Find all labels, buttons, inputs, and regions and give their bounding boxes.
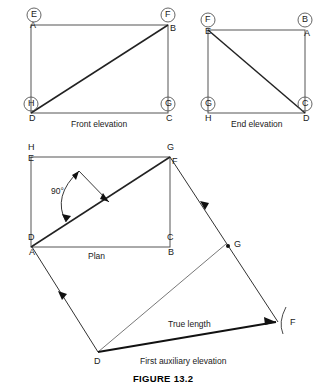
front-elevation-caption: Front elevation bbox=[71, 120, 127, 129]
front-elevation-label-top-right: B bbox=[170, 24, 176, 33]
auxiliary-point-g-label: G bbox=[234, 240, 241, 249]
projector-a-to-d-arrowhead bbox=[58, 291, 67, 300]
end-elevation-label-bottom-right: D bbox=[303, 114, 310, 123]
plan-circled-label-top-left: H bbox=[28, 143, 35, 152]
front-elevation-circled-label-top-left: E bbox=[31, 10, 37, 19]
front-elevation-circled-label-top-right: F bbox=[165, 10, 171, 19]
end-elevation-circled-label-top-right: B bbox=[302, 15, 308, 24]
plan-view bbox=[31, 157, 170, 247]
auxiliary-point-d-label: D bbox=[94, 357, 101, 366]
end-elevation-circled-label-bottom-right: C bbox=[302, 99, 309, 108]
true-length-label: True length bbox=[168, 320, 211, 329]
right-angle-arrowhead-lower bbox=[62, 214, 71, 222]
first-auxiliary-elevation-view bbox=[32, 157, 286, 352]
front-elevation-diagonal bbox=[31, 25, 168, 113]
plan-circled-label-top-right: G bbox=[167, 143, 174, 152]
construction-line-d-to-plan-f bbox=[98, 244, 226, 352]
point-g-marker bbox=[226, 244, 230, 248]
plan-label-bottom-left: A bbox=[29, 248, 35, 257]
front-elevation-label-top-left: A bbox=[30, 21, 36, 30]
plan-label-top-right: F bbox=[172, 157, 178, 166]
end-elevation-caption: End elevation bbox=[231, 120, 283, 129]
end-elevation-label-bottom-left: H bbox=[205, 114, 212, 123]
front-elevation-label-bottom-left: D bbox=[29, 114, 36, 123]
figure-number-caption: FIGURE 13.2 bbox=[133, 373, 193, 384]
end-elevation-view bbox=[201, 13, 312, 113]
projector-f-to-g-to-f bbox=[170, 157, 278, 322]
front-elevation-circled-label-bottom-right: G bbox=[165, 99, 172, 108]
end-elevation-label-top-left: E bbox=[205, 27, 211, 36]
right-angle-arrowhead-upper bbox=[72, 171, 79, 180]
first-auxiliary-elevation-caption: First auxiliary elevation bbox=[140, 357, 226, 366]
end-elevation-circled-label-top-left: F bbox=[205, 15, 211, 24]
front-elevation-label-bottom-right: C bbox=[166, 114, 173, 123]
plan-label-top-left: E bbox=[28, 154, 34, 163]
plan-circled-label-bottom-right: C bbox=[167, 233, 174, 242]
front-elevation-circled-label-bottom-left: H bbox=[28, 99, 35, 108]
auxiliary-point-f-label: F bbox=[290, 318, 296, 327]
projector-a-to-d bbox=[32, 247, 98, 352]
plan-label-bottom-right: B bbox=[168, 248, 174, 257]
plan-caption: Plan bbox=[88, 252, 105, 261]
end-elevation-circled-label-bottom-left: G bbox=[205, 99, 212, 108]
plan-circled-label-bottom-left: D bbox=[28, 233, 35, 242]
front-elevation-view bbox=[24, 8, 175, 113]
end-elevation-diagonal bbox=[208, 30, 305, 113]
plan-right-angle-label: 90° bbox=[51, 186, 64, 196]
end-elevation-label-top-right: A bbox=[304, 29, 310, 38]
point-f-arc-tick bbox=[281, 307, 286, 334]
plan-diagonal bbox=[31, 157, 170, 247]
